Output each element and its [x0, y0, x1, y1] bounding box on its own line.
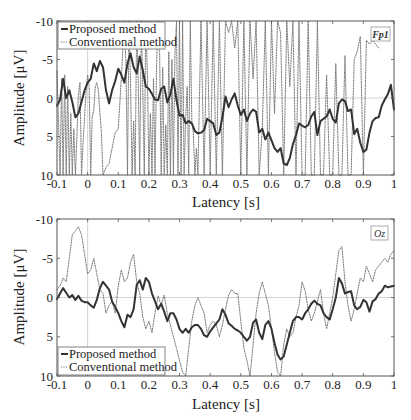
x-tick-label: 0.6	[263, 176, 280, 191]
channel-label: Oz	[374, 228, 385, 239]
x-tick-label: 0.2	[141, 377, 157, 392]
chart-panel-fp1: -10-50510 -0.100.10.20.30.40.50.60.70.80…	[11, 14, 397, 211]
x-tick-label: 0.2	[141, 176, 157, 191]
x-tick-label: -0.1	[47, 176, 68, 191]
x-tick-label: -0.1	[47, 377, 68, 392]
x-axis-label: Latency [s]	[192, 396, 260, 412]
x-tick-label: 0.1	[110, 377, 126, 392]
y-tick-label: 5	[47, 129, 54, 144]
y-tick-label: 5	[47, 329, 54, 344]
legend-conventional-label: Conventional method	[69, 360, 178, 374]
x-tick-label: 1	[391, 176, 398, 191]
x-tick-label: 0.7	[294, 176, 311, 191]
x-tick-label: 0.8	[325, 176, 341, 191]
x-tick-label: 0.4	[202, 377, 219, 392]
legend: Proposed method Conventional method	[58, 347, 178, 375]
y-tick-label: -10	[36, 212, 53, 227]
legend-proposed-label: Proposed method	[69, 347, 157, 361]
y-tick-label: 0	[47, 290, 54, 305]
x-tick-label: 1	[391, 377, 398, 392]
y-tick-labels: -10-50510	[36, 212, 53, 384]
x-tick-label: 0.5	[233, 377, 249, 392]
x-axis-label: Latency [s]	[192, 194, 260, 210]
y-axis-label: Amplitude [μV]	[11, 50, 27, 147]
x-tick-label: 0	[84, 176, 91, 191]
x-tick-label: 0.5	[233, 176, 249, 191]
figure: -10-50510 -0.100.10.20.30.40.50.60.70.80…	[0, 0, 411, 420]
x-tick-label: 0.3	[171, 176, 187, 191]
y-tick-labels: -10-50510	[36, 14, 53, 183]
x-tick-label: 0.8	[325, 377, 341, 392]
y-tick-label: -5	[42, 251, 53, 266]
x-tick-label: 0.3	[171, 377, 187, 392]
x-tick-label: 0.4	[202, 176, 219, 191]
y-tick-label: -5	[42, 52, 53, 67]
x-tick-label: 0.7	[294, 377, 311, 392]
x-tick-label: 0.6	[263, 377, 280, 392]
chart-panel-oz: -10-50510 -0.100.10.20.30.40.50.60.70.80…	[11, 212, 397, 413]
legend: Proposed method Conventional method	[58, 22, 178, 49]
legend-conventional-label: Conventional method	[69, 35, 178, 49]
y-tick-label: -10	[36, 14, 53, 29]
x-tick-labels: -0.100.10.20.30.40.50.60.70.80.91	[47, 377, 398, 392]
x-tick-label: 0	[84, 377, 91, 392]
x-tick-label: 0.9	[355, 176, 371, 191]
x-tick-label: 0.9	[355, 377, 371, 392]
channel-label: Fp1	[371, 29, 389, 40]
channel-label-box: Fp1	[371, 27, 390, 41]
x-tick-labels: -0.100.10.20.30.40.50.60.70.80.91	[47, 176, 398, 191]
legend-proposed-label: Proposed method	[69, 22, 157, 36]
x-tick-label: 0.1	[110, 176, 126, 191]
channel-label-box: Oz	[371, 226, 388, 240]
y-axis-label: Amplitude [μV]	[11, 249, 27, 346]
y-tick-label: 0	[47, 91, 54, 106]
